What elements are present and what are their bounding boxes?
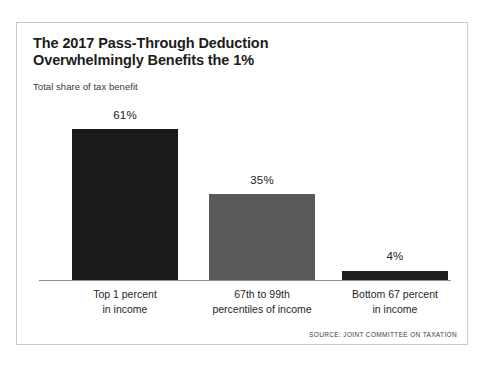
chart-title: The 2017 Pass-Through Deduction Overwhel… [33,35,451,69]
chart-card: The 2017 Pass-Through Deduction Overwhel… [16,22,468,345]
category-label-bottom-67-percent: Bottom 67 percent in income [320,287,470,316]
chart-category-labels: Top 1 percent in income 67th to 99th per… [39,287,451,331]
bar-value-label: 61% [72,109,178,121]
chart-baseline-axis [39,280,451,281]
chart-plot-area: 61% 35% 4% [39,119,451,281]
chart-subtitle: Total share of tax benefit [33,81,451,92]
category-label-67th-to-99th: 67th to 99th percentiles of income [187,287,337,316]
bar-group-67th-to-99th: 35% [209,119,317,281]
category-label-top-1-percent: Top 1 percent in income [50,287,200,316]
bar-value-label: 4% [342,250,448,262]
bar-value-label: 35% [209,174,315,186]
bar-group-bottom-67-percent: 4% [342,119,450,281]
source-note: SOURCE: JOINT COMMITTEE ON TAXATION [309,331,457,338]
bar-top-1-percent [72,129,178,281]
bar-67th-to-99th-percentiles [209,194,315,281]
bar-group-top-1-percent: 61% [72,119,180,281]
chart-header: The 2017 Pass-Through Deduction Overwhel… [33,35,451,92]
